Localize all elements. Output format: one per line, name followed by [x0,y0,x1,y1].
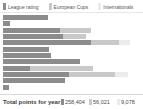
bar-segment [3,28,60,33]
bar-segment [115,72,128,77]
bar-row [3,34,143,39]
bar-segment [3,40,91,45]
bar-segment [119,40,130,45]
bar-segment [3,59,80,64]
total-swatch-icon [89,99,92,105]
legend-item-european-cups[interactable]: European Cups [49,3,89,10]
bar-segment [3,15,48,20]
bar-segment [3,34,63,39]
legend-item-label: League rating [8,4,39,10]
legend-item-label: Internationals [103,4,133,10]
total-european-cups: 56,021 [89,99,117,105]
total-value: 56,021 [93,99,110,105]
bar-segment [91,40,119,45]
bar-row [3,28,143,33]
stacked-bar-chart-widget: League rating European Cups Internationa… [0,0,143,109]
bar-segment [3,47,49,52]
bar-row [3,72,143,77]
legend-item-label: European Cups [54,4,89,10]
bar-row [3,78,143,83]
bar-row [3,59,143,64]
bar-segment [3,53,51,58]
bar-segment [30,66,93,71]
bar-row [3,21,143,26]
totals-footer: Total points for year 258,404 56,021 9,0… [0,94,143,109]
legend-item-internationals[interactable]: Internationals [98,3,133,10]
bar-segment [3,78,65,83]
total-swatch-icon [117,99,120,105]
bar-segment [3,21,10,26]
legend-item-league-rating[interactable]: League rating [3,3,39,10]
bar-segment [3,72,69,77]
legend-swatch-icon [49,3,52,10]
bar-segment [63,34,85,39]
bar-segment [3,66,30,71]
bar-row [3,47,143,52]
bar-row [3,40,143,45]
bar-row [3,53,143,58]
total-league-rating: 258,404 [61,99,89,105]
bar-segment [69,72,115,77]
totals-label: Total points for year [3,99,61,105]
total-internationals: 9,078 [117,99,143,105]
legend-swatch-icon [3,3,6,10]
chart-legend: League rating European Cups Internationa… [0,0,143,13]
total-swatch-icon [61,99,64,105]
chart-plot-area [0,13,143,94]
total-value: 258,404 [65,99,85,105]
bar-segment [60,28,91,33]
total-value: 9,078 [121,99,135,105]
bar-row [3,85,143,90]
bar-row [3,66,143,71]
bar-segment [3,85,9,90]
bar-row [3,15,143,20]
legend-swatch-icon [98,3,101,10]
